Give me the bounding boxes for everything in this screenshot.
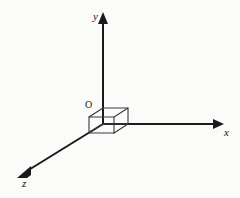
origin-unit-cube	[89, 108, 128, 133]
coordinate-axes-svg	[0, 0, 240, 198]
figure-canvas: y x z O	[0, 0, 240, 198]
y-axis-label: y	[93, 11, 98, 22]
x-axis-label: x	[224, 127, 229, 138]
cube-bottom-right-edge	[114, 124, 128, 133]
y-axis-arrowhead	[98, 12, 108, 24]
cube-top-face	[89, 108, 128, 117]
origin-label: O	[85, 100, 92, 110]
x-axis-arrowhead	[213, 119, 224, 129]
z-axis-label: z	[22, 178, 26, 189]
cube-bottom-left-edge	[89, 124, 103, 133]
